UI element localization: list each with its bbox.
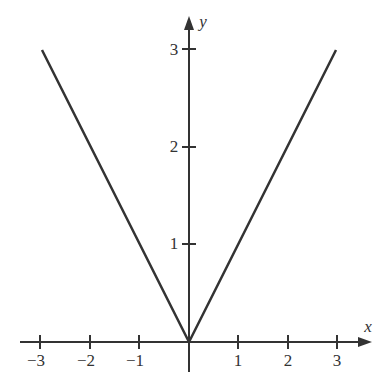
x-tick-label: 1 xyxy=(234,351,243,371)
y-axis-arrow-icon xyxy=(184,16,194,30)
x-tick-label: 3 xyxy=(333,351,342,371)
plot-area xyxy=(0,0,391,385)
y-tick-label: 2 xyxy=(170,137,179,157)
x-axis-arrow-icon xyxy=(358,337,372,347)
x-tick-label: −3 xyxy=(27,351,45,371)
x-axis-label: x xyxy=(364,317,372,337)
x-tick-label: 2 xyxy=(284,351,293,371)
chart: x y −3 −2 −1 1 2 3 1 2 3 xyxy=(0,0,391,385)
x-tick-label: −1 xyxy=(126,351,144,371)
x-tick-label: −2 xyxy=(77,351,95,371)
y-tick-label: 1 xyxy=(170,234,179,254)
y-tick-label: 3 xyxy=(170,40,179,60)
y-axis-label: y xyxy=(199,12,207,32)
